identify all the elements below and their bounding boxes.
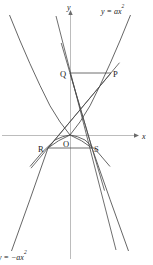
x-axis-label: x bbox=[141, 132, 146, 141]
point-label-Q: Q bbox=[60, 69, 66, 79]
point-label-R: R bbox=[38, 144, 44, 154]
x-axis-arrow-icon bbox=[134, 133, 139, 137]
secant-line-QS-extended bbox=[61, 43, 104, 191]
y-axis-label: y bbox=[66, 3, 71, 12]
point-label-P: P bbox=[113, 69, 118, 79]
point-labels-group: P Q R S O bbox=[38, 69, 118, 154]
secant-line-steep-right bbox=[56, 16, 116, 250]
upward-parabola-label-text: y = ax bbox=[100, 7, 122, 16]
extended-secant-lines bbox=[31, 16, 120, 250]
upward-parabola-label: y = ax2 bbox=[100, 3, 125, 16]
downward-parabola-label-exponent: 2 bbox=[24, 249, 27, 255]
downward-parabola-label-text: y = −ax bbox=[0, 253, 24, 262]
point-label-O: O bbox=[63, 139, 69, 149]
upward-parabola-label-exponent: 2 bbox=[122, 3, 125, 9]
secant-line-RP-extended bbox=[31, 63, 120, 169]
downward-parabola-outer-branches bbox=[12, 135, 129, 251]
point-label-S: S bbox=[94, 144, 99, 154]
figure-canvas: P Q R S O x y y = ax2 y = −ax2 bbox=[0, 0, 153, 265]
downward-parabola-label: y = −ax2 bbox=[0, 249, 27, 262]
parabola-figure: P Q R S O x y y = ax2 y = −ax2 bbox=[0, 0, 153, 265]
